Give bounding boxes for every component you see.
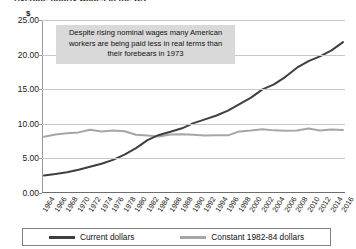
- annotation-callout: Despite rising nominal wages many Americ…: [56, 25, 235, 64]
- grid-line: [42, 124, 345, 125]
- y-axis-tick-label: 5.00: [22, 153, 39, 163]
- y-axis-tick: [38, 193, 42, 194]
- annotation-line-2: workers are being paid less in real term…: [60, 39, 231, 50]
- y-axis-tick-label: 20.00: [18, 50, 39, 60]
- grid-line: [42, 89, 345, 90]
- legend-swatch-icon-current: [49, 236, 75, 239]
- chart-legend: Current dollars Constant 1982-84 dollars: [22, 228, 331, 246]
- legend-swatch-icon-constant: [180, 236, 206, 239]
- y-axis-tick: [38, 124, 42, 125]
- annotation-line-1: Despite rising nominal wages many Americ…: [60, 28, 231, 39]
- annotation-line-3: their forebears in 1973: [60, 49, 231, 60]
- y-axis-tick: [38, 89, 42, 90]
- y-axis-labels: 0.005.0010.0015.0020.0025.00: [0, 20, 39, 193]
- series-line-constant-dollars: [44, 129, 343, 137]
- y-axis-tick-label: 25.00: [18, 15, 39, 25]
- x-axis-labels: 1964196619681970197219741976197819801982…: [42, 195, 345, 225]
- legend-item-current-dollars: Current dollars: [49, 232, 134, 242]
- legend-item-constant-dollars: Constant 1982-84 dollars: [180, 232, 304, 242]
- grid-line: [42, 20, 345, 21]
- grid-line: [42, 158, 345, 159]
- legend-label-current: Current dollars: [80, 232, 134, 242]
- y-axis-tick: [38, 20, 42, 21]
- y-axis-tick-label: 0.00: [22, 188, 39, 198]
- y-axis-tick: [38, 158, 42, 159]
- y-axis-tick: [38, 55, 42, 56]
- y-axis-tick-label: 15.00: [18, 84, 39, 94]
- legend-label-constant: Constant 1982-84 dollars: [211, 232, 304, 242]
- chart-title: Average hourly wages in the US: [14, 0, 146, 1]
- y-axis-tick-label: 10.00: [18, 119, 39, 129]
